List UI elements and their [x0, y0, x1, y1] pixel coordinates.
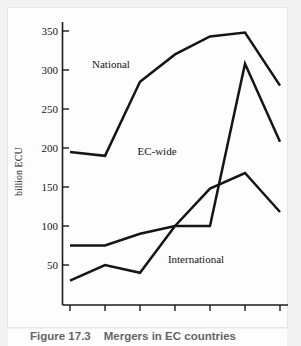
- x-tick-label: 1985: [59, 314, 82, 316]
- x-tick-label: 91: [275, 314, 286, 316]
- figure-caption: Figure 17.3Mergers in EC countries: [8, 329, 287, 346]
- x-tick-label: 90: [240, 314, 252, 316]
- y-axis-title: billion ECU: [13, 147, 24, 196]
- line-chart: 350 300 250 200 150 100 50 billion ECU: [0, 0, 301, 316]
- y-tick-label: 150: [42, 181, 59, 193]
- x-tick-label: 86: [100, 314, 112, 316]
- x-axis-tick-labels: 1985 86 87 88 89 90 91: [59, 314, 286, 316]
- y-tick-label: 50: [47, 259, 59, 271]
- x-tick-label: 87: [135, 314, 147, 316]
- x-axis-ticks: [70, 305, 280, 311]
- series-label-international: International: [168, 253, 224, 265]
- scanned-page-background: 350 300 250 200 150 100 50 billion ECU: [0, 0, 301, 346]
- x-tick-label: 88: [170, 314, 182, 316]
- figure-caption-number: Figure 17.3: [30, 330, 91, 342]
- series-label-national: National: [92, 58, 130, 70]
- y-tick-label: 100: [42, 220, 59, 232]
- y-axis-ticks: [63, 31, 70, 265]
- y-tick-label: 300: [42, 64, 59, 76]
- series-label-ec-wide: EC-wide: [137, 145, 176, 157]
- y-tick-label: 350: [42, 25, 59, 37]
- figure-caption-title: Mergers in EC countries: [104, 330, 236, 342]
- chart-plot-area: 350 300 250 200 150 100 50 billion ECU: [0, 0, 301, 316]
- y-tick-label: 250: [42, 103, 59, 115]
- x-tick-label: 89: [205, 314, 217, 316]
- y-tick-label: 200: [42, 142, 59, 154]
- y-axis-tick-labels: 350 300 250 200 150 100 50: [42, 25, 59, 271]
- series-line-national: [70, 33, 280, 156]
